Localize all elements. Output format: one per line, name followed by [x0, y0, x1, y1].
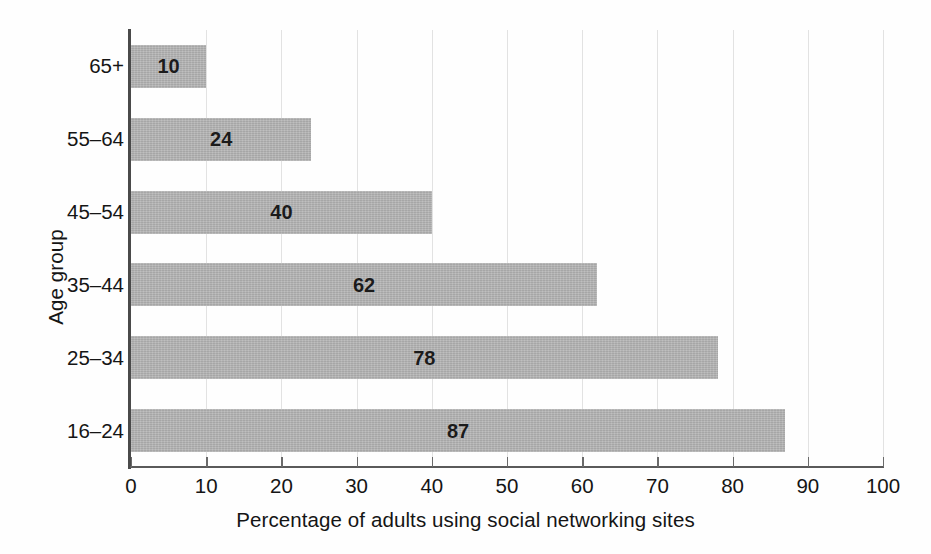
gridline: [733, 30, 734, 467]
x-axis-title-text: Percentage of adults using social networ…: [236, 508, 695, 531]
x-axis-tick: [657, 457, 658, 467]
x-axis-tick: [507, 457, 508, 467]
gridline: [883, 30, 884, 467]
x-axis-tick-label: 40: [420, 474, 443, 498]
gridline: [131, 30, 132, 467]
x-axis-tick-label: 20: [270, 474, 293, 498]
x-axis-tick-label: 60: [571, 474, 594, 498]
bar-value-label: 24: [210, 128, 232, 151]
bar-value-label: 10: [157, 55, 179, 78]
y-axis-tick-label: 55–64: [67, 125, 124, 153]
y-axis-tick-label: 35–44: [67, 271, 124, 299]
y-axis-tick-label: 65+: [89, 52, 124, 80]
x-axis-tick: [206, 457, 207, 467]
bar-value-label: 87: [447, 419, 469, 442]
y-axis-tick-labels: 65+55–6445–5435–4425–3416–24: [52, 30, 124, 467]
plot-area: 102440627887: [131, 30, 883, 467]
bar-value-label: 62: [353, 273, 375, 296]
gridline: [657, 30, 658, 467]
y-axis-tick-label: 25–34: [67, 344, 124, 372]
x-axis-tick: [131, 457, 132, 467]
y-axis-tick-label: 16–24: [67, 417, 124, 445]
gridline: [507, 30, 508, 467]
gridline: [357, 30, 358, 467]
x-axis-tick: [281, 457, 282, 467]
x-axis-title: Percentage of adults using social networ…: [0, 508, 931, 532]
bar-value-label: 40: [270, 201, 292, 224]
x-axis-tick-label: 0: [125, 474, 136, 498]
x-axis-tick: [808, 457, 809, 467]
y-axis-tick-label: 45–54: [67, 198, 124, 226]
bar-value-label: 78: [413, 346, 435, 369]
x-axis-tick-label: 90: [796, 474, 819, 498]
x-axis-tick-label: 30: [345, 474, 368, 498]
x-axis-tick-label: 70: [646, 474, 669, 498]
gridline: [582, 30, 583, 467]
x-axis-tick-label: 100: [866, 474, 900, 498]
x-axis-tick: [432, 457, 433, 467]
x-axis-tick-label: 10: [195, 474, 218, 498]
x-axis-tick: [733, 457, 734, 467]
gridline: [206, 30, 207, 467]
bar-chart: Age group 65+55–6445–5435–4425–3416–24 1…: [0, 0, 931, 554]
gridline: [432, 30, 433, 467]
gridline: [281, 30, 282, 467]
x-axis-tick: [883, 457, 884, 467]
x-axis-tick-label: 80: [721, 474, 744, 498]
x-axis-tick: [582, 457, 583, 467]
x-axis-tick-label: 50: [496, 474, 519, 498]
x-axis-tick: [357, 457, 358, 467]
gridline: [808, 30, 809, 467]
